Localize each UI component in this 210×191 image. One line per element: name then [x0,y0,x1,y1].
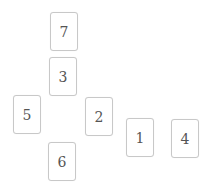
card-label: 5 [23,107,32,123]
card-label: 6 [58,154,67,170]
card-1[interactable]: 1 [126,118,154,157]
card-3[interactable]: 3 [49,57,77,96]
card-5[interactable]: 5 [13,95,41,134]
card-label: 4 [181,131,190,147]
card-4[interactable]: 4 [171,119,199,158]
card-7[interactable]: 7 [50,12,78,51]
card-label: 2 [95,109,104,125]
card-label: 7 [60,24,69,40]
card-label: 1 [136,130,145,146]
card-2[interactable]: 2 [85,97,113,136]
card-label: 3 [59,69,68,85]
card-6[interactable]: 6 [48,142,76,181]
